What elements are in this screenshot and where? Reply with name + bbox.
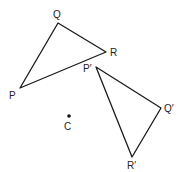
label-q-prime: Q′ <box>164 103 174 114</box>
label-q: Q <box>53 9 61 20</box>
triangle-pqr <box>20 23 106 88</box>
label-r-prime: R′ <box>127 160 136 171</box>
label-p: P <box>9 90 16 101</box>
label-r: R <box>110 47 117 58</box>
rotation-diagram: P Q R P′ Q′ R′ C <box>0 0 185 172</box>
center-point-c <box>67 114 71 118</box>
label-p-prime: P′ <box>83 63 92 74</box>
triangle-pqr-image <box>96 67 161 157</box>
label-c: C <box>64 121 71 132</box>
